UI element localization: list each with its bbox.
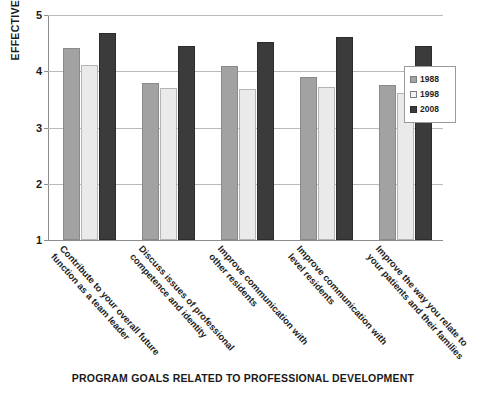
- legend-item[interactable]: 1988: [410, 72, 451, 87]
- x-axis-line: [48, 240, 443, 241]
- bar: [221, 66, 238, 240]
- bar: [99, 33, 116, 240]
- bar: [257, 42, 274, 240]
- legend-item-label: 1988: [420, 75, 439, 84]
- y-axis-tick-mark: [44, 71, 48, 72]
- bar: [300, 77, 317, 240]
- plot-area: 12345: [48, 15, 443, 240]
- legend-item[interactable]: 2008: [410, 102, 451, 117]
- y-axis-tick-label: 4: [36, 66, 42, 77]
- y-axis-tick-mark: [44, 128, 48, 129]
- bar-chart: EFFECTIVENESS RATING 12345 Contribute to…: [0, 0, 486, 404]
- legend-item[interactable]: 1998: [410, 87, 451, 102]
- legend-swatch-icon: [410, 106, 417, 113]
- legend-item-label: 1998: [420, 90, 439, 99]
- x-axis-title: PROGRAM GOALS RELATED TO PROFESSIONAL DE…: [0, 372, 486, 384]
- y-axis-tick-label: 1: [36, 235, 42, 246]
- bar: [81, 65, 98, 241]
- y-axis-title: EFFECTIVENESS RATING: [6, 0, 24, 88]
- bar: [63, 48, 80, 240]
- y-axis-tick-mark: [44, 240, 48, 241]
- y-axis-tick-label: 5: [36, 10, 42, 21]
- legend-swatch-icon: [410, 91, 417, 98]
- legend-item-label: 2008: [420, 105, 439, 114]
- bar: [142, 83, 159, 241]
- bar: [318, 87, 335, 240]
- y-axis-tick-mark: [44, 184, 48, 185]
- x-axis-category-labels: Contribute to your overall future functi…: [48, 243, 486, 363]
- y-axis-title-container: EFFECTIVENESS RATING: [4, 30, 22, 230]
- bar: [379, 85, 396, 240]
- bar: [178, 46, 195, 240]
- y-axis-tick-label: 2: [36, 178, 42, 189]
- gridline: [48, 15, 443, 16]
- y-axis-tick-label: 3: [36, 122, 42, 133]
- bar: [239, 89, 256, 240]
- y-axis-tick-mark: [44, 15, 48, 16]
- legend-swatch-icon: [410, 76, 417, 83]
- bar: [336, 37, 353, 240]
- legend: 198819982008: [404, 66, 456, 123]
- bar: [160, 88, 177, 240]
